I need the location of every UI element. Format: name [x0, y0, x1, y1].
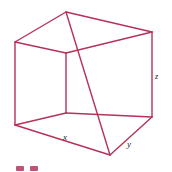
- clipped-caption-fragment: [16, 166, 46, 172]
- figure-container: x y z: [0, 0, 172, 172]
- cube-edge-top-left-to-top-front: [15, 42, 66, 53]
- wireframe-cube-drawing: [0, 0, 172, 172]
- cube-edge-top-back-to-top-right: [66, 12, 152, 32]
- cube-edge-bottom-right-to-bottom-front: [110, 117, 152, 155]
- cube-edge-vertical-back: [66, 12, 110, 155]
- dimension-label-z: z: [155, 73, 158, 81]
- caption-glyph-mark-right: [30, 166, 38, 171]
- cube-edge-top-right-to-top-front: [66, 32, 152, 53]
- cube-edge-bottom-right-to-bottom-back: [66, 113, 152, 117]
- cube-edge-top-back-to-top-left: [15, 12, 66, 42]
- cube-edge-group: [15, 12, 152, 155]
- cube-edge-bottom-left-to-bottom-back: [15, 113, 66, 125]
- caption-glyph-mark-left: [16, 166, 24, 171]
- dimension-label-x: x: [63, 133, 67, 142]
- dimension-label-y: y: [127, 140, 131, 149]
